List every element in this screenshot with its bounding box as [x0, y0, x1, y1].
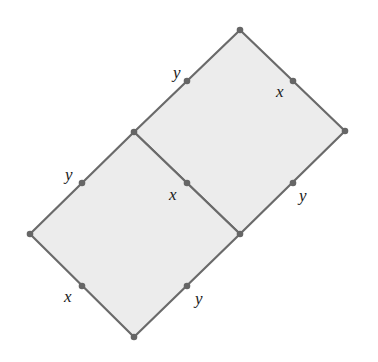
- division-dot: [290, 180, 297, 187]
- two-squares-diagram: yxyxyxy: [0, 0, 378, 362]
- division-dot: [184, 78, 191, 85]
- edge-label-x: x: [63, 287, 72, 306]
- vertex-dot-mid-left: [131, 129, 138, 136]
- vertex-dot-mid-right: [237, 231, 244, 238]
- edge-label-y: y: [193, 289, 203, 308]
- vertex-dot-top: [237, 27, 244, 34]
- edge-label-y: y: [297, 186, 307, 205]
- vertex-dot-left: [27, 231, 34, 238]
- vertex-dot-bottom: [131, 334, 138, 341]
- division-dot: [290, 78, 297, 85]
- edge-label-y: y: [63, 165, 73, 184]
- division-dot: [79, 180, 86, 187]
- edge-label-x: x: [275, 82, 284, 101]
- division-dot: [184, 180, 191, 187]
- edge-label-x: x: [168, 185, 177, 204]
- vertex-dot-right: [342, 128, 349, 135]
- division-dot: [79, 283, 86, 290]
- edge-label-y: y: [171, 63, 181, 82]
- division-dot: [184, 283, 191, 290]
